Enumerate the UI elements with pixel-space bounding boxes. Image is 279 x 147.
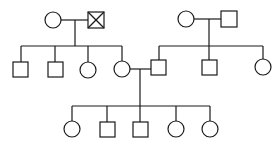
- male-individual-II6: [202, 60, 217, 75]
- male-individual-III3: [133, 122, 148, 137]
- male-individual-II1: [13, 62, 28, 77]
- male-individual-III2: [100, 122, 115, 137]
- male-individual-I4: [221, 11, 237, 27]
- generation-III: [64, 121, 218, 137]
- pedigree-chart: [0, 0, 279, 147]
- family-2-connectors: [159, 19, 263, 60]
- family-1-connectors: [21, 20, 122, 62]
- female-individual-II7: [255, 59, 271, 75]
- female-individual-III1: [64, 121, 80, 137]
- male-individual-II2: [48, 62, 63, 77]
- female-individual-I3: [178, 11, 194, 27]
- male-individual-II5: [151, 60, 166, 75]
- male-individual-I2-crossed: [88, 12, 104, 28]
- female-individual-III4: [168, 121, 184, 137]
- female-individual-II4: [114, 61, 130, 77]
- female-individual-III5: [202, 121, 218, 137]
- female-individual-I1: [45, 12, 61, 28]
- female-individual-II3: [80, 62, 96, 78]
